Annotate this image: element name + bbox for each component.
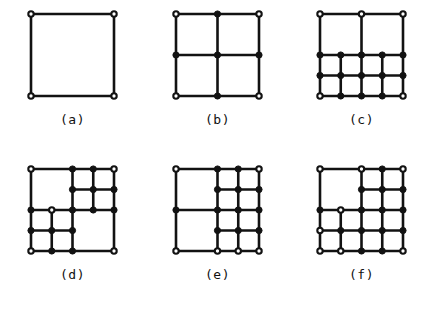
mesh-node-open [338,248,343,253]
mesh-node-open [359,11,364,16]
mesh-node-filled [379,93,385,99]
mesh-node-filled [214,11,220,17]
mesh-node-filled [317,72,323,78]
mesh-node-filled [235,166,241,172]
mesh-node-open [28,166,33,171]
mesh-node-filled [214,93,220,99]
panel-b-mesh [145,0,290,130]
panel-a-mesh [0,0,145,130]
mesh-node-filled [400,52,406,58]
mesh-node-filled [256,227,262,233]
mesh-node-filled [90,207,96,213]
mesh-node-filled [400,227,406,233]
panel-b: (b) [145,0,290,155]
mesh-node-filled [69,227,75,233]
panel-c-label: (c) [289,112,434,127]
mesh-node-filled [400,207,406,213]
panel-f-mesh [289,155,434,285]
panel-c: (c) [289,0,434,155]
mesh-node-open [111,248,116,253]
mesh-node-filled [338,93,344,99]
mesh-node-open [28,11,33,16]
mesh-node-filled [379,166,385,172]
mesh-node-filled [358,248,364,254]
mesh-node-filled [358,72,364,78]
mesh-node-open [400,11,405,16]
panel-e-label: (e) [145,267,290,282]
mesh-node-filled [214,227,220,233]
mesh-node-filled [111,186,117,192]
mesh-node-filled [358,52,364,58]
mesh-node-filled [214,166,220,172]
mesh-node-filled [317,52,323,58]
mesh-node-filled [28,207,34,213]
mesh-node-open [338,207,343,212]
mesh-refinement-figure: (a) (b) (c) (d) (e) (f) [0,0,434,310]
mesh-node-open [173,166,178,171]
panel-b-label: (b) [145,112,290,127]
panel-d-mesh [0,155,145,285]
mesh-node-open [256,248,261,253]
mesh-node-filled [379,52,385,58]
panel-f: (f) [289,155,434,310]
mesh-node-open [256,93,261,98]
mesh-node-filled [358,207,364,213]
mesh-node-open [173,248,178,253]
mesh-node-open [256,11,261,16]
mesh-node-filled [173,207,179,213]
mesh-node-filled [338,227,344,233]
mesh-node-open [317,93,322,98]
mesh-node-open [317,248,322,253]
mesh-node-open [256,166,261,171]
panel-c-mesh [289,0,434,130]
mesh-node-filled [235,207,241,213]
mesh-node-open [400,248,405,253]
mesh-node-open [359,166,364,171]
mesh-node-open [236,248,241,253]
mesh-node-open [49,207,54,212]
mesh-node-filled [379,248,385,254]
mesh-node-open [317,166,322,171]
mesh-node-open [111,93,116,98]
mesh-node-filled [379,207,385,213]
panel-e-mesh [145,155,290,285]
mesh-node-filled [235,227,241,233]
mesh-node-filled [256,186,262,192]
mesh-node-filled [214,186,220,192]
mesh-node-filled [28,227,34,233]
mesh-node-open [317,11,322,16]
mesh-node-filled [358,186,364,192]
mesh-node-filled [379,227,385,233]
mesh-node-filled [317,207,323,213]
panel-f-label: (f) [289,267,434,282]
mesh-node-filled [400,186,406,192]
mesh-node-filled [214,207,220,213]
mesh-node-open [111,11,116,16]
mesh-node-open [173,11,178,16]
panel-e: (e) [145,155,290,310]
panel-d: (d) [0,155,145,310]
mesh-node-filled [69,207,75,213]
mesh-node-open [111,166,116,171]
mesh-node-open [28,93,33,98]
panel-d-label: (d) [0,267,145,282]
mesh-node-filled [235,186,241,192]
mesh-node-filled [49,248,55,254]
mesh-node-open [317,228,322,233]
mesh-node-filled [338,52,344,58]
mesh-node-filled [379,72,385,78]
mesh-node-filled [49,227,55,233]
mesh-node-filled [379,186,385,192]
panel-a-label: (a) [0,112,145,127]
mesh-node-filled [400,72,406,78]
mesh-node-filled [69,248,75,254]
mesh-node-open [400,93,405,98]
mesh-node-filled [256,207,262,213]
mesh-node-filled [358,93,364,99]
mesh-node-open [215,248,220,253]
mesh-node-filled [111,207,117,213]
mesh-node-open [28,248,33,253]
mesh-node-filled [214,52,220,58]
mesh-node-open [173,93,178,98]
mesh-node-filled [256,52,262,58]
